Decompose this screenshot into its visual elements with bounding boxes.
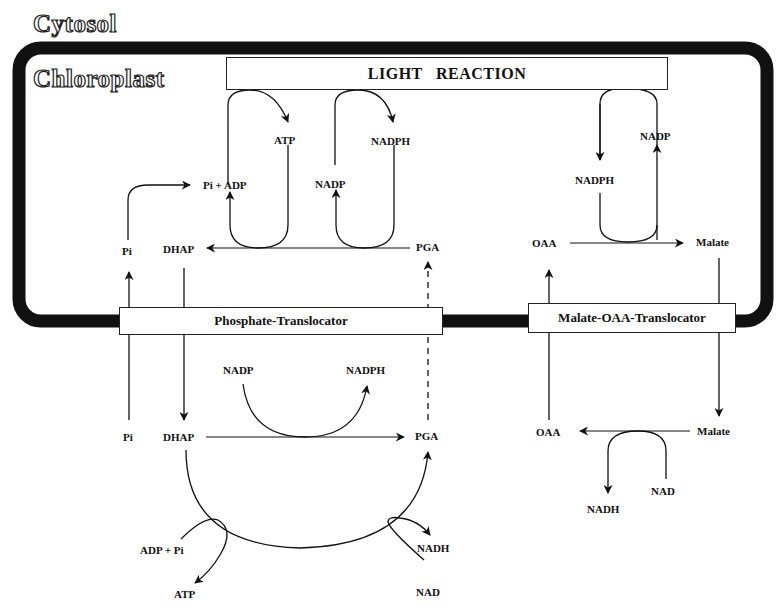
label-nadh-cytosol: NADH: [587, 504, 619, 515]
label-malate-cytosol: Malate: [697, 426, 730, 437]
nad-to-nadh-malate-arc: [608, 431, 666, 493]
phosphate-translocator-label: Phosphate-Translocator: [214, 313, 347, 329]
label-oaa-chloroplast: OAA: [532, 238, 556, 249]
nadph-to-nadp-loop: [336, 145, 394, 248]
label-atp-cytosol: ATP: [174, 589, 195, 600]
label-pga-chloroplast: PGA: [416, 242, 439, 253]
nadph-to-nadp-malate-loop: [600, 88, 657, 160]
light-reaction-label: LIGHT REACTION: [368, 65, 526, 83]
phosphate-translocator-box: Phosphate-Translocator: [119, 307, 443, 335]
chloroplast-title: Chloroplast: [33, 66, 164, 91]
label-nadp-malate-loop: NADP: [640, 131, 671, 142]
label-dhap-cytosol: DHAP: [163, 432, 194, 443]
malate-oaa-translocator-box: Malate-OAA-Translocator: [528, 303, 736, 333]
glycolysis-loop: [186, 450, 428, 548]
label-pi-cytosol: Pi: [123, 432, 133, 443]
label-pi-adp: Pi + ADP: [203, 180, 247, 191]
label-nadp-chloroplast: NADP: [315, 179, 346, 190]
nadph-loop-arrow: [335, 90, 393, 165]
label-nadph-malate-loop: NADPH: [575, 175, 614, 186]
cytosol-title: Cytosol: [33, 11, 117, 36]
atp-to-pi-adp-loop: [230, 145, 288, 248]
label-atp-chloroplast: ATP: [274, 135, 295, 146]
label-nadph-chloroplast: NADPH: [371, 136, 410, 147]
malate-oaa-translocator-label: Malate-OAA-Translocator: [558, 310, 706, 326]
label-nadp-cytosol: NADP: [223, 365, 254, 376]
label-malate-chloroplast: Malate: [696, 237, 729, 248]
label-nadph-cytosol: NADPH: [346, 365, 385, 376]
nadph-down-to-reaction: [600, 193, 657, 242]
label-dhap-chloroplast: DHAP: [163, 244, 194, 255]
label-nad-glycolysis: NAD: [416, 587, 440, 598]
label-pga-cytosol: PGA: [415, 431, 438, 442]
label-nadh-glycolysis: NADH: [417, 543, 449, 554]
label-oaa-cytosol: OAA: [536, 427, 560, 438]
nadp-to-nadph-arc: [243, 384, 367, 437]
adp-pi-to-atp-arrow: [181, 519, 227, 583]
light-reaction-box: LIGHT REACTION: [226, 57, 668, 90]
label-pi-chloroplast: Pi: [122, 246, 132, 257]
label-nad-cytosol: NAD: [651, 486, 675, 497]
pi-to-pi-adp-arrow: [128, 185, 190, 240]
label-adp-pi: ADP + Pi: [140, 545, 184, 556]
